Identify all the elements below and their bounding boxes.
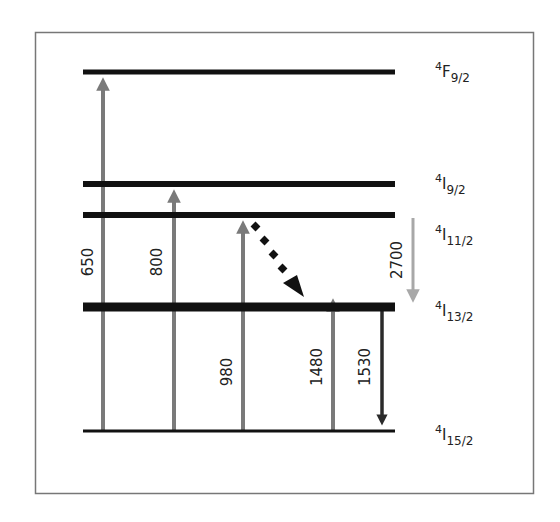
level-4I15-2 [83, 430, 395, 433]
level-4F9-2 [83, 70, 395, 75]
level-label-4I15-2: 4I15/2 [435, 423, 473, 448]
energy-level-diagram: 4F9/2 4I9/2 4I11/2 4I13/2 4I15/2 650 800… [0, 0, 560, 522]
transition-label-1480: 1480 [308, 348, 326, 386]
level-4I13-2 [83, 303, 395, 312]
transition-label-980: 980 [218, 358, 236, 387]
transition-label-800: 800 [148, 248, 166, 277]
level-4I11-2 [83, 212, 395, 218]
level-4I9-2 [83, 181, 395, 187]
level-label-4I13-2: 4I13/2 [435, 299, 473, 324]
nonradiative-decay-arrow [251, 222, 304, 297]
diagram-frame [36, 33, 534, 494]
transition-label-650: 650 [79, 248, 97, 277]
level-label-4I9-2: 4I9/2 [435, 172, 466, 197]
transition-label-2700: 2700 [388, 241, 406, 279]
level-label-4I11-2: 4I11/2 [435, 223, 473, 248]
level-label-4F9-2: 4F9/2 [435, 60, 470, 85]
transition-label-1530: 1530 [356, 348, 374, 386]
